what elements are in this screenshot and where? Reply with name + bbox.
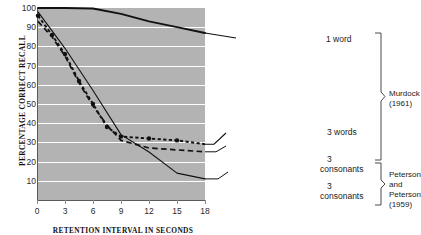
source-peterson-line1: Peterson — [389, 170, 421, 180]
bracket-murdock — [375, 33, 385, 160]
source-peterson-line2: and — [389, 180, 402, 190]
bracket-peterson — [375, 163, 385, 205]
series-3-consonants-dashed-line — [38, 21, 205, 151]
series-1-word-line — [38, 8, 205, 33]
source-murdock-line1: Murdock — [389, 89, 420, 99]
label-3-words: 3 words — [327, 128, 357, 138]
leader-3-words — [205, 133, 226, 144]
label-3-consonants-solid-line2: consonants — [320, 192, 363, 202]
leader-1-word — [205, 33, 236, 38]
leader-3-consonants-solid — [205, 172, 228, 179]
source-peterson-line3: Peterson — [389, 190, 421, 200]
series-3-consonants-solid-line — [38, 12, 205, 179]
series-3-words-line — [38, 16, 205, 145]
source-murdock-line2: (1961) — [389, 99, 412, 109]
series-3-words-markers — [36, 14, 179, 143]
label-1-word: 1 word — [326, 35, 352, 45]
source-peterson-line4: (1959) — [389, 200, 412, 210]
leader-3-consonants-dashed — [205, 146, 226, 152]
label-3-consonants-dashed-line2: consonants — [320, 165, 363, 175]
